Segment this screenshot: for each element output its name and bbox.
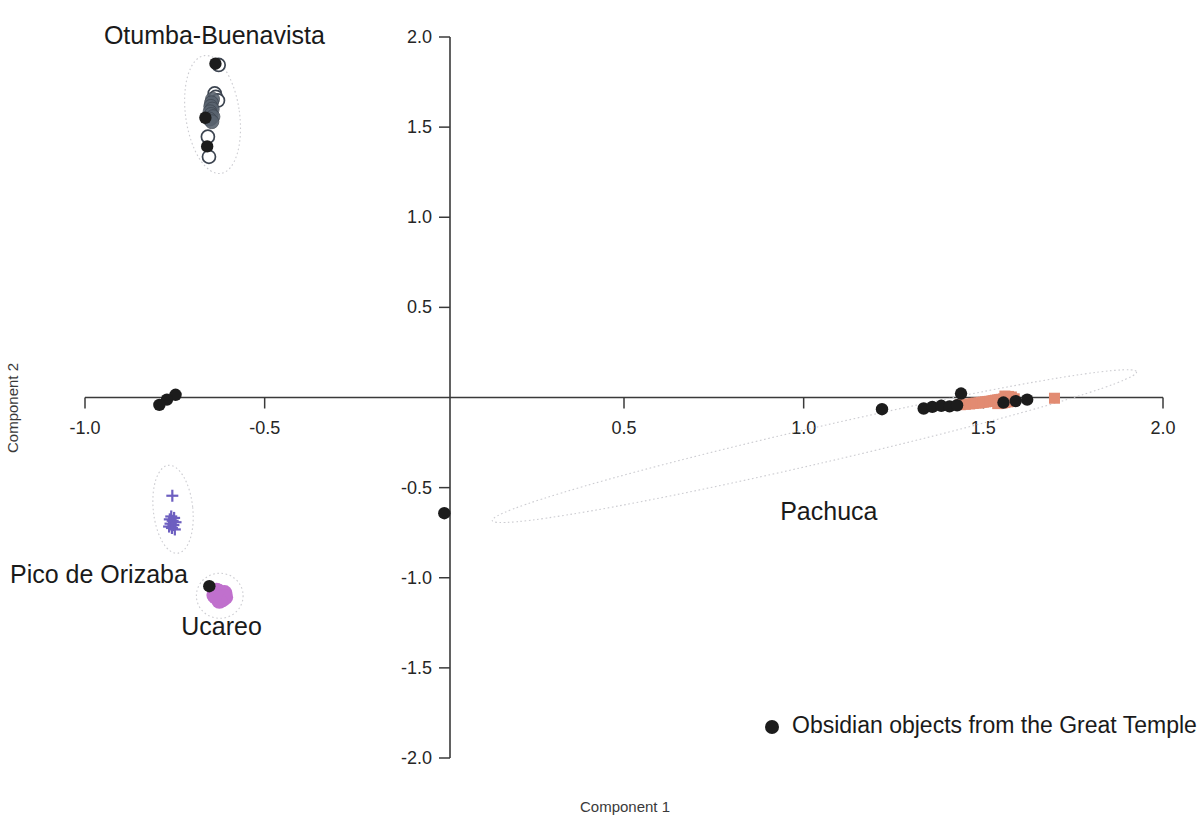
y-tick-label: -2.0 <box>401 748 432 768</box>
y-tick-label: -0.5 <box>401 478 432 498</box>
scatter-plot-figure: -1.0-0.50.51.01.52.02.01.51.00.5-0.5-1.0… <box>0 0 1199 821</box>
y-tick-label: 1.0 <box>407 207 432 227</box>
y-axis-title: Component 2 <box>4 363 21 453</box>
legend-marker-icon <box>765 720 779 734</box>
data-point-great-temple <box>955 387 967 399</box>
data-point-pico-de-orizaba <box>166 490 178 502</box>
cluster-label-ucareo: Ucareo <box>181 612 262 640</box>
data-point-great-temple <box>997 396 1009 408</box>
legend-layer: Obsidian objects from the Great Temple <box>765 712 1197 738</box>
data-point-great-temple <box>153 399 165 411</box>
y-tick-label: 0.5 <box>407 297 432 317</box>
data-point-great-temple <box>1021 393 1033 405</box>
x-tick-label: -0.5 <box>249 418 280 438</box>
x-tick-label: 0.5 <box>611 418 636 438</box>
y-tick-label: 1.5 <box>407 117 432 137</box>
x-tick-label: -1.0 <box>69 418 100 438</box>
data-point-great-temple <box>209 57 221 69</box>
data-points-layer <box>153 57 1060 608</box>
confidence-ellipse <box>149 463 198 555</box>
y-tick-label: -1.5 <box>401 658 432 678</box>
legend-label: Obsidian objects from the Great Temple <box>792 712 1197 738</box>
y-tick-label: 2.0 <box>407 27 432 47</box>
confidence-ellipse-layer <box>149 52 1141 618</box>
plot-canvas: -1.0-0.50.51.01.52.02.01.51.00.5-0.5-1.0… <box>0 0 1199 821</box>
x-tick-label: 1.0 <box>791 418 816 438</box>
data-point-great-temple <box>876 403 888 415</box>
data-point-great-temple <box>199 112 211 124</box>
data-point-great-temple <box>1009 395 1021 407</box>
axes-layer: -1.0-0.50.51.01.52.02.01.51.00.5-0.5-1.0… <box>4 27 1176 815</box>
cluster-label-pachuca: Pachuca <box>780 497 877 525</box>
data-point-great-temple <box>201 140 213 152</box>
cluster-label-pico-de-orizaba: Pico de Orizaba <box>10 560 188 588</box>
cluster-labels-layer: Otumba-BuenavistaPachucaPico de OrizabaU… <box>10 21 878 640</box>
data-point-great-temple <box>203 580 215 592</box>
x-axis-title: Component 1 <box>580 798 670 815</box>
data-point-pachuca <box>1049 393 1060 404</box>
cluster-label-otumba-buenavista: Otumba-Buenavista <box>104 21 325 49</box>
x-tick-label: 2.0 <box>1150 418 1175 438</box>
x-tick-label: 1.5 <box>971 418 996 438</box>
data-point-great-temple <box>438 507 450 519</box>
data-point-great-temple <box>951 399 963 411</box>
y-tick-label: -1.0 <box>401 568 432 588</box>
